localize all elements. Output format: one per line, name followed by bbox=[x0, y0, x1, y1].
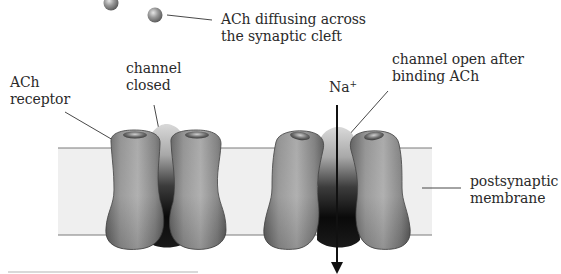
ach-molecule-icon bbox=[148, 8, 163, 23]
ach-diffusing-label: ACh diffusing across the synaptic cleft bbox=[221, 11, 366, 45]
label-line: binding ACh bbox=[392, 68, 524, 85]
ach-molecule-icon bbox=[104, 0, 119, 11]
label-line: channel bbox=[126, 60, 181, 77]
channel-closed-label: channel closed bbox=[126, 60, 181, 94]
label-line: membrane bbox=[470, 190, 558, 207]
label-line: closed bbox=[126, 77, 181, 94]
ach-molecules bbox=[104, 0, 163, 23]
ach-receptor-label: ACh receptor bbox=[10, 74, 70, 108]
clipped-caption bbox=[8, 268, 198, 274]
diagram-canvas: ACh diffusing across the synaptic cleft … bbox=[0, 0, 561, 274]
ion-charge: + bbox=[349, 79, 356, 89]
channel-open-label: channel open after binding ACh bbox=[392, 51, 524, 85]
sodium-ion-label: Na+ bbox=[329, 79, 357, 96]
label-line: postsynaptic bbox=[470, 173, 558, 190]
postsynaptic-membrane-label: postsynaptic membrane bbox=[470, 173, 558, 207]
label-line: channel open after bbox=[392, 51, 524, 68]
ach-receptor-closed bbox=[106, 124, 226, 249]
ion-symbol: Na bbox=[329, 79, 349, 95]
label-line: ACh diffusing across bbox=[221, 11, 366, 28]
label-line: the synaptic cleft bbox=[221, 28, 366, 45]
label-line: ACh bbox=[10, 74, 70, 91]
label-line: receptor bbox=[10, 91, 70, 108]
